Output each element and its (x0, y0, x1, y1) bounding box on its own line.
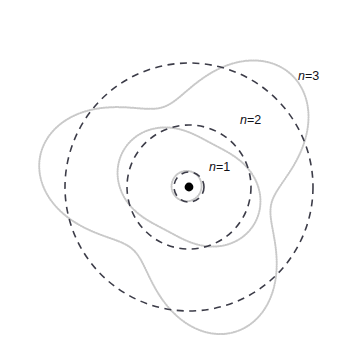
orbit-label-n2-variable: n (240, 113, 247, 127)
wave-path-n3 (39, 60, 308, 334)
orbit-label-n1-value: 1 (223, 160, 230, 174)
orbit-label-n1-variable: n (209, 160, 216, 174)
orbit-label-n2: n=2 (240, 114, 261, 127)
nucleus-dot (185, 183, 194, 192)
orbit-label-n2-value: 2 (254, 113, 261, 127)
orbit-label-n3-value: 3 (312, 69, 319, 83)
orbit-label-n3-variable: n (298, 69, 305, 83)
orbit-label-n1: n=1 (209, 161, 230, 174)
bohr-orbit-figure: n=1 n=2 n=3 (0, 0, 346, 360)
orbit-label-n3: n=3 (298, 70, 319, 83)
figure-canvas (0, 0, 346, 360)
